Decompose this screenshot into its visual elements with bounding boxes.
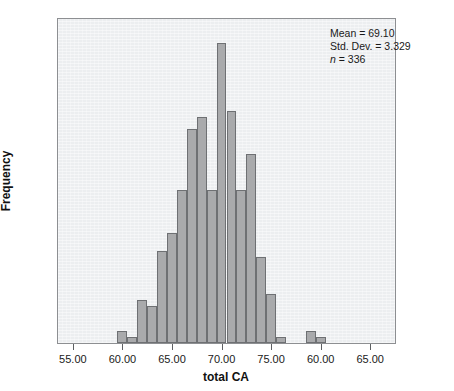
n-value: = 336	[336, 53, 366, 65]
histogram-bar	[167, 233, 177, 343]
histogram-bar	[117, 331, 127, 343]
histogram-bar	[236, 190, 246, 343]
x-axis-tick-label: 65.00	[158, 353, 186, 365]
histogram-bar	[246, 154, 256, 344]
histogram-bar	[177, 190, 187, 343]
histogram-bar	[316, 337, 326, 343]
histogram-bar	[207, 190, 217, 343]
std-dev-text: Std. Dev. = 3.329	[330, 40, 411, 53]
statistics-annotation: Mean = 69.10 Std. Dev. = 3.329 n = 336	[330, 27, 411, 66]
y-axis-title: Frequency	[0, 151, 13, 212]
bars-container	[58, 19, 395, 343]
mean-text: Mean = 69.10	[330, 27, 411, 40]
histogram-bar	[197, 117, 207, 343]
x-axis-tick	[122, 344, 123, 350]
y-axis: Frequency 01020304050	[0, 0, 57, 391]
histogram-bar	[256, 257, 266, 343]
plot-area	[57, 18, 396, 344]
x-axis-tick-label: 65.00	[356, 353, 384, 365]
histogram-bar	[217, 43, 227, 343]
sample-size-text: n = 336	[330, 53, 411, 66]
histogram-bar	[157, 251, 167, 343]
x-axis-tick	[271, 344, 272, 350]
x-axis-tick-label: 60.00	[109, 353, 137, 365]
histogram-bar	[147, 306, 157, 343]
x-axis-tick	[321, 344, 322, 350]
x-axis-title: total CA	[203, 370, 249, 384]
histogram-bar	[306, 331, 316, 343]
histogram-bar	[187, 129, 197, 343]
x-axis-tick-label: 75.00	[257, 353, 285, 365]
histogram-chart: Frequency 01020304050 total CA 55.0060.0…	[0, 0, 454, 391]
histogram-bar	[276, 337, 286, 343]
histogram-bar	[127, 337, 137, 343]
x-axis-tick	[172, 344, 173, 350]
x-axis-tick-label: 60.00	[307, 353, 335, 365]
x-axis: total CA 55.0060.0065.0070.0075.0060.006…	[0, 344, 454, 391]
histogram-bar	[266, 294, 276, 343]
x-axis-tick	[370, 344, 371, 350]
x-axis-tick	[73, 344, 74, 350]
x-axis-tick	[222, 344, 223, 350]
x-axis-tick-label: 70.00	[208, 353, 236, 365]
histogram-bar	[137, 300, 147, 343]
x-axis-tick-label: 55.00	[59, 353, 87, 365]
histogram-bar	[227, 111, 237, 343]
